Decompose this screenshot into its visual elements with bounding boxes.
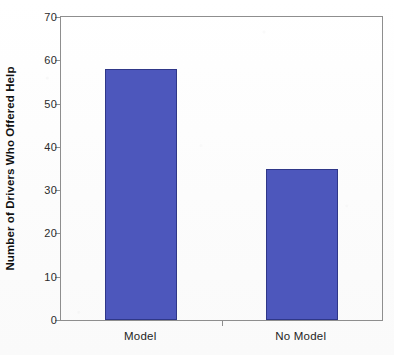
bar-no-model (266, 169, 338, 321)
x-axis-tick-mark (222, 320, 223, 326)
y-axis-tick-label: 0 (51, 314, 57, 326)
y-axis-tick-label: 60 (44, 54, 57, 66)
x-axis-category-label: No Model (275, 330, 326, 342)
bar-chart-figure: Number of Drivers Who Offered Help 01020… (0, 0, 394, 355)
plot-frame: 010203040506070 (60, 16, 383, 321)
y-axis-tick-label: 10 (44, 271, 57, 283)
plot-area: 010203040506070 (61, 17, 382, 320)
y-axis-tick-label: 20 (44, 227, 57, 239)
bar-model (105, 69, 177, 320)
x-axis-category-label: Model (124, 330, 156, 342)
y-axis-tick-label: 40 (44, 141, 57, 153)
y-axis-tick-label: 30 (44, 184, 57, 196)
y-axis-tick-label: 50 (44, 98, 57, 110)
y-axis-title: Number of Drivers Who Offered Help (2, 16, 18, 321)
y-axis-tick-label: 70 (44, 11, 57, 23)
